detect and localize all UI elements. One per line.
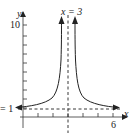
vertical-asymptote-label: x = 3 (61, 7, 82, 17)
horizontal-asymptote-label: = 1 (0, 104, 13, 114)
x-ticks (38, 113, 113, 117)
arrow-left-up (59, 16, 65, 24)
arrow-left-out (15, 105, 22, 111)
arrow-right-out (113, 105, 120, 111)
x-axis-label: x (124, 109, 128, 119)
y-axis-label: y (17, 9, 21, 19)
arrow-right-up (72, 16, 78, 24)
curve-right-branch (75, 22, 118, 108)
y-tick-label-10: 10 (10, 20, 20, 30)
y-ticks (23, 25, 27, 108)
x-tick-label-6: 6 (111, 120, 116, 130)
